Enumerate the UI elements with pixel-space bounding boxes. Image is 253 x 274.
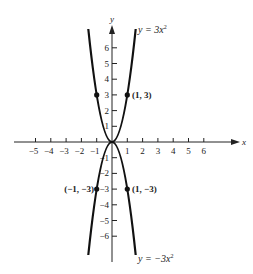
x-tick-label: 5 [186,146,191,156]
x-tick-label: −4 [44,146,54,156]
x-axis-label: x [241,137,246,147]
equation-label-top: y = 3x2 [137,24,167,35]
y-axis-arrow-icon [109,25,115,34]
y-tick-label: 3 [105,90,110,100]
y-tick-label: 2 [105,106,110,116]
point-neg1-neg3 [94,187,99,192]
x-tick-label: −3 [59,146,69,156]
x-tick-label: 2 [140,146,145,156]
x-tick-label: −1 [90,146,100,156]
x-tick-label: 4 [171,146,176,156]
x-tick-label: 6 [202,146,207,156]
y-tick-label: 4 [105,74,110,84]
y-tick-label: 6 [105,43,110,53]
point-1-neg3 [125,187,130,192]
point-label-1-3: (1, 3) [132,90,152,100]
x-tick-label: −5 [29,146,39,156]
y-tick-label: −5 [99,216,109,226]
point-label-1-neg3: (1, −3) [132,184,157,194]
y-tick-label: −3 [99,184,109,194]
y-tick-label: −6 [99,231,109,241]
x-tick-label: 3 [156,146,161,156]
point-label-neg1-neg3: (−1, −3) [64,184,94,194]
y-tick-label: 5 [105,59,110,69]
x-tick-label: −2 [75,146,85,156]
graph-canvas: x y −5 −4 −3 −2 −1 1 2 3 4 5 6 [0,0,253,274]
x-ticks [36,138,204,142]
y-axis: y [109,14,115,262]
y-axis-label: y [109,14,114,24]
point-1-3 [125,92,130,97]
y-tick-label: 1 [105,121,110,131]
x-axis-arrow-icon [231,139,240,145]
y-tick-label: −4 [99,200,109,210]
equation-label-bottom: y = −3x2 [137,253,173,264]
point-neg1-3 [94,92,99,97]
x-tick-label: 1 [125,146,130,156]
